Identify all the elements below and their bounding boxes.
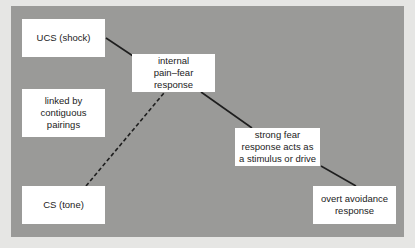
node-internal-pain-fear-response: internal pain–fear response xyxy=(132,54,215,92)
node-strong-fear-response: strong fear response acts as a stimulus … xyxy=(235,128,320,166)
node-linked-by-contiguous-pairings: linked by contiguous pairings xyxy=(22,89,105,137)
edge-pain-fear-to-strong-fear xyxy=(201,92,252,128)
node-label: overt avoidance response xyxy=(319,193,390,217)
node-label: internal pain–fear response xyxy=(150,55,197,91)
node-label: linked by contiguous pairings xyxy=(40,95,87,131)
node-cs-tone: CS (tone) xyxy=(22,186,105,224)
node-label: UCS (shock) xyxy=(37,32,91,44)
node-overt-avoidance-response: overt avoidance response xyxy=(313,186,396,224)
node-label: strong fear response acts as a stimulus … xyxy=(238,129,317,165)
node-ucs-shock: UCS (shock) xyxy=(22,19,105,57)
edge-ucs-to-pain-fear xyxy=(106,38,133,56)
edge-strong-fear-to-avoidance xyxy=(321,166,356,186)
node-label: CS (tone) xyxy=(43,199,84,211)
